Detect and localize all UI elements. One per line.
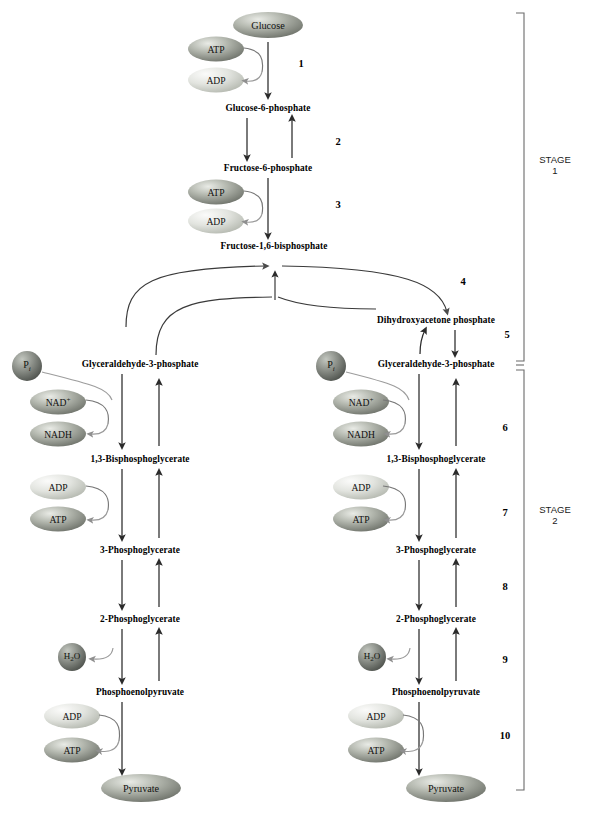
- cofactor-bubbles: [30, 12, 486, 802]
- curve-adp-in-left-10: [99, 715, 120, 741]
- stage-1-bracket: [516, 13, 524, 361]
- cofactor-bubble-atp: [333, 507, 389, 532]
- curve-nad-in-left: [86, 400, 108, 424]
- curve-h2o-out-right: [390, 648, 410, 659]
- metabolite-label-left-pg3: 3-Phosphoglycerate: [100, 545, 180, 555]
- molecule-circle-pi-right: [316, 351, 346, 381]
- cofactor-bubble-atp: [30, 507, 86, 532]
- metabolite-label-g3p-right: Glyceraldehyde-3-phosphate: [378, 359, 495, 369]
- pathway-artwork: [0, 0, 589, 819]
- stage-1-label: STAGE1: [539, 154, 571, 176]
- arrow-g3p-right-to-dhap: [420, 330, 425, 354]
- arrow-f16bp-to-g3p-left: [126, 266, 266, 327]
- metabolite-label-right-pep: Phosphoenolpyruvate: [392, 687, 480, 697]
- cofactor-bubble-adp: [30, 475, 86, 500]
- metabolite-label-left-bpg13: 1,3-Bisphosphoglycerate: [90, 454, 189, 464]
- metabolite-label-f16bp: Fructose-1,6-bisphosphate: [220, 241, 327, 251]
- step-number-1: 1: [298, 58, 303, 69]
- step-number-9: 9: [502, 654, 507, 665]
- curve-adp-out-3: [245, 214, 262, 222]
- curve-atp-out-left-10: [99, 741, 119, 752]
- cofactor-bubble-nadh: [30, 422, 86, 447]
- metabolite-label-right-pg3: 3-Phosphoglycerate: [396, 545, 476, 555]
- step-number-6: 6: [502, 422, 507, 433]
- curve-adp-in-right-10: [403, 715, 424, 741]
- cofactor-bubble-adp: [44, 704, 100, 729]
- step-number-2: 2: [335, 136, 340, 147]
- stage-2-label: STAGE2: [539, 504, 571, 526]
- stage-2-bracket: [516, 370, 524, 790]
- curve-atp-in-3: [244, 191, 263, 214]
- curve-adp-in-left-7: [86, 486, 108, 510]
- curve-nadh-out-left: [90, 424, 108, 434]
- metabolite-bubble-pyruvate-left: [101, 774, 181, 802]
- cofactor-bubble-nadplus: [333, 390, 389, 415]
- step-number-7: 7: [502, 507, 507, 518]
- metabolite-label-right-bpg13: 1,3-Bisphosphoglycerate: [386, 454, 485, 464]
- step-number-8: 8: [502, 581, 507, 592]
- curve-atp-in-1: [244, 48, 263, 72]
- cofactor-bubble-nadplus: [30, 390, 86, 415]
- curve-h2o-out-left: [92, 648, 113, 659]
- arrow-f16bp-to-dhap: [282, 266, 447, 312]
- molecule-circle-h2o-right: [358, 643, 386, 671]
- cofactor-bubble-atp: [348, 738, 404, 763]
- molecule-circle-h2o-left: [58, 643, 86, 671]
- cofactor-bubble-adp: [188, 209, 244, 234]
- metabolite-label-left-pep: Phosphoenolpyruvate: [96, 687, 184, 697]
- step-number-3: 3: [335, 199, 340, 210]
- metabolite-label-dhap: Dihydroxyacetone phosphate: [377, 315, 495, 325]
- stage-brackets: [516, 13, 524, 790]
- cofactor-bubble-adp: [333, 475, 389, 500]
- step-number-5: 5: [504, 329, 509, 340]
- metabolite-label-left-pg2: 2-Phosphoglycerate: [100, 614, 180, 624]
- molecule-circle-pi-left: [12, 351, 42, 381]
- curve-atp-out-left-7: [90, 510, 108, 520]
- glycolysis-diagram: GlucoseGlucose-6-phosphateFructose-6-pho…: [0, 0, 589, 819]
- metabolite-label-g6p: Glucose-6-phosphate: [225, 103, 310, 113]
- arrow-dhap-to-f16bp-tail: [278, 297, 376, 309]
- cofactor-bubble-atp: [44, 738, 100, 763]
- metabolite-label-f6p: Fructose-6-phosphate: [224, 163, 312, 173]
- step-number-10: 10: [500, 730, 511, 741]
- cofactor-bubble-atp: [188, 37, 244, 62]
- metabolite-label-g3p-left: Glyceraldehyde-3-phosphate: [82, 359, 199, 369]
- step-number-4: 4: [460, 276, 465, 287]
- reaction-arrows: [122, 42, 456, 772]
- cofactor-bubble-nadh: [333, 422, 389, 447]
- cofactor-bubble-adp: [348, 704, 404, 729]
- cofactor-bubble-adp: [188, 68, 244, 93]
- curve-adp-out-1: [245, 72, 262, 81]
- cofactor-bubble-atp: [188, 180, 244, 205]
- metabolite-bubble-glucose: [233, 12, 303, 38]
- metabolite-label-right-pg2: 2-Phosphoglycerate: [396, 614, 476, 624]
- curve-atp-out-right-10: [403, 741, 423, 752]
- arrow-g3p-left-to-f16bp-tail: [156, 297, 272, 355]
- metabolite-bubble-pyruvate-right: [406, 774, 486, 802]
- curve-atp-out-right-7: [387, 510, 405, 520]
- curve-nadh-out-right: [387, 424, 405, 434]
